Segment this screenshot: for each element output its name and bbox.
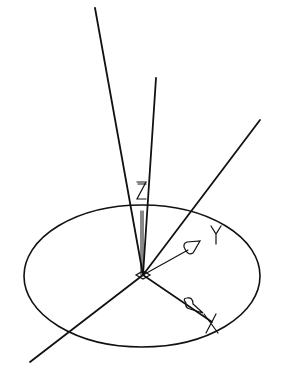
- y-axis-arrow-icon: [184, 241, 200, 254]
- ray-upper-center: [143, 78, 156, 275]
- ray-long-upper-left: [95, 8, 143, 275]
- diagram-canvas: X Y Z: [0, 0, 285, 372]
- coordinate-diagram: X Y Z: [0, 0, 285, 372]
- z-axis-label: [137, 182, 146, 199]
- x-axis-line: [143, 275, 212, 322]
- x-axis-label: [204, 314, 218, 333]
- y-axis-line: [143, 250, 188, 275]
- ray-upper-right: [143, 120, 260, 275]
- y-axis-label: [211, 226, 221, 244]
